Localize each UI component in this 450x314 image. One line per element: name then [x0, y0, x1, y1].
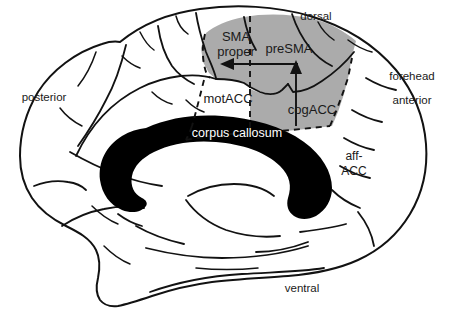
medulla-line [196, 268, 258, 270]
short-sulcus-dorsal-3 [122, 56, 140, 68]
brainstem-ventral [146, 246, 308, 258]
occipital-sulcus-lower [60, 108, 82, 126]
thalamus-outline [188, 184, 274, 196]
midbrain-outline [186, 200, 280, 237]
label-sma-proper-line1: SMA [222, 29, 251, 44]
label-sma-proper-line2: proper [217, 44, 255, 59]
label-ventral: ventral [285, 282, 320, 294]
parieto-occipital-sulcus [78, 45, 126, 146]
label-corpus-callosum: corpus callosum [192, 126, 282, 140]
cerebellum-boundary [118, 214, 142, 226]
short-sulcus-dorsal-1 [140, 32, 154, 50]
label-dorsal: dorsal [300, 10, 331, 22]
pons-line [256, 242, 308, 252]
occipital-pole-notch [34, 181, 86, 190]
frontal-pole-sulcus-1 [352, 110, 382, 122]
brain-diagram-svg: SMA proper preSMA motACC cogACC aff- ACC… [0, 0, 450, 314]
label-aff-acc-line1: aff- [345, 149, 362, 163]
orbital-boundary [358, 212, 374, 246]
label-presma: preSMA [266, 41, 313, 56]
temporal-sulcus [104, 246, 130, 264]
brainstem-dorsal [136, 226, 184, 244]
label-motacc: motACC [203, 91, 252, 106]
label-aff-acc-line2: ACC [341, 164, 367, 178]
short-sulcus-dorsal-5 [186, 100, 204, 112]
occipital-sulcus-upper [78, 52, 96, 86]
label-forehead: forehead [389, 70, 434, 82]
short-sulcus-dorsal-4 [152, 92, 172, 104]
label-posterior: posterior [22, 91, 67, 103]
subcallosal-sulcus [332, 190, 360, 208]
brain-diagram-figure: SMA proper preSMA motACC cogACC aff- ACC… [0, 0, 450, 314]
label-anterior: anterior [393, 94, 432, 106]
short-sulcus-dorsal-2 [176, 16, 188, 34]
gyrus-rectus-line [300, 224, 346, 232]
label-cogacc: cogACC [288, 102, 336, 117]
